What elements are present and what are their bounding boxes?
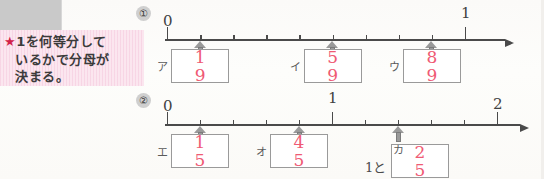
tick-line-2-3 — [266, 120, 267, 125]
mixed-number-prefix-カ: 1と — [365, 157, 386, 176]
fraction-オ: 45 — [271, 135, 327, 167]
problem-number-2: ② — [136, 93, 151, 108]
tick-line-2-10 — [497, 112, 498, 125]
top-left-gray-block-edge — [61, 0, 62, 30]
fraction-numerator: 8 — [426, 50, 437, 65]
tick-line-1-9 — [465, 27, 466, 40]
marker-arrow-カ — [392, 126, 405, 142]
fraction-numerator: 2 — [415, 145, 426, 160]
fraction-denominator: 5 — [294, 152, 305, 168]
hint-note-line-3: 決まる。 — [4, 68, 139, 86]
hint-note-line-2: いるかで分母が — [4, 51, 139, 69]
fraction-ウ: 89 — [404, 50, 460, 82]
tick-line-2-6 — [365, 120, 366, 125]
answer-box-エ[interactable]: 15 — [171, 134, 229, 168]
tick-line-1-7 — [399, 35, 400, 40]
fraction-numerator: 4 — [294, 135, 305, 150]
tick-line-1-4 — [299, 35, 300, 40]
answer-box-オ[interactable]: 45 — [270, 134, 328, 168]
star-icon: ★ — [4, 34, 16, 49]
fraction-denominator: 5 — [195, 152, 206, 168]
fraction-denominator: 9 — [327, 67, 338, 83]
tick-line-2-0 — [167, 112, 168, 125]
marker-label-ウ: ウ — [389, 58, 400, 74]
problem-number-1: ① — [136, 6, 151, 21]
axis-label-2-mid: 1 — [328, 89, 338, 107]
fraction-denominator: 9 — [195, 67, 206, 83]
marker-label-ア: ア — [157, 58, 168, 74]
fraction-ア: 19 — [172, 50, 228, 82]
axis-line-2 — [165, 124, 520, 126]
tick-line-2-1 — [200, 120, 201, 125]
worksheet-page: ★1を何等分して いるかで分母が 決まる。 ① 0 1 ② 0 1 2 19ア5… — [0, 0, 544, 179]
answer-box-ウ[interactable]: 89 — [403, 49, 461, 83]
fraction-numerator: 1 — [195, 50, 206, 65]
marker-label-イ: イ — [290, 58, 301, 74]
marker-label-オ: オ — [256, 143, 267, 159]
fraction-numerator: 1 — [195, 135, 206, 150]
answer-box-ア[interactable]: 19 — [171, 49, 229, 83]
axis-arrowhead-1 — [505, 39, 514, 47]
answer-box-イ[interactable]: 59 — [304, 49, 362, 83]
tick-line-2-4 — [299, 120, 300, 125]
tick-line-1-8 — [432, 35, 433, 40]
marker-label-エ: エ — [157, 143, 168, 159]
axis-label-2-end: 2 — [493, 95, 503, 113]
tick-line-2-2 — [233, 120, 234, 125]
fraction-denominator: 9 — [426, 67, 437, 83]
axis-label-1-end: 1 — [461, 4, 471, 22]
hint-note-text-1: 1を何等分して — [16, 34, 107, 49]
tick-line-1-5 — [333, 35, 334, 40]
tick-line-1-3 — [266, 35, 267, 40]
fraction-エ: 15 — [172, 135, 228, 167]
axis-arrowhead-2 — [520, 124, 529, 132]
tick-line-2-5 — [332, 112, 333, 125]
tick-line-1-2 — [233, 35, 234, 40]
fraction-イ: 59 — [305, 50, 361, 82]
hint-note-line-1: ★1を何等分して — [4, 33, 139, 51]
tick-line-1-1 — [200, 35, 201, 40]
tick-line-2-7 — [398, 120, 399, 125]
tick-line-1-6 — [366, 35, 367, 40]
fraction-numerator: 5 — [327, 50, 338, 65]
fraction-denominator: 5 — [415, 162, 426, 178]
hint-note: ★1を何等分して いるかで分母が 決まる。 — [0, 30, 144, 86]
marker-label-カ: カ — [393, 141, 404, 157]
tick-line-1-0 — [167, 27, 168, 40]
tick-line-2-9 — [464, 120, 465, 125]
top-left-gray-block — [0, 0, 61, 30]
tick-line-2-8 — [431, 120, 432, 125]
